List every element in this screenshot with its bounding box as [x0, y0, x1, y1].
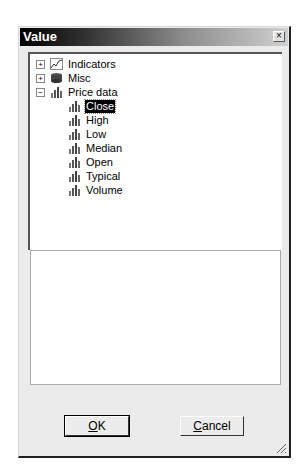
ok-accel: O — [88, 419, 97, 433]
cancel-accel: C — [193, 419, 202, 433]
bar-chart-icon — [68, 114, 81, 126]
bar-chart-icon — [68, 100, 81, 112]
tree-node-label: Typical — [86, 170, 120, 183]
tree-node-label: Low — [86, 128, 106, 141]
value-dialog: Value × + Indicators + Misc − — [18, 26, 291, 458]
ok-button[interactable]: OK — [65, 416, 129, 436]
dialog-title: Value — [23, 29, 57, 44]
value-tree[interactable]: + Indicators + Misc − Price data — [28, 52, 282, 250]
tree-node-label: Close — [85, 100, 115, 113]
description-panel — [30, 250, 281, 385]
ok-label-rest: K — [98, 419, 106, 433]
bar-chart-icon — [68, 128, 81, 140]
tree-node-label: Misc — [68, 72, 91, 85]
tree-node-label: Open — [86, 156, 113, 169]
expand-icon[interactable]: + — [36, 60, 45, 69]
bar-chart-icon — [50, 86, 63, 98]
tree-node-label: Indicators — [68, 58, 116, 71]
expand-icon[interactable]: + — [36, 74, 45, 83]
tree-node-label: Volume — [86, 184, 123, 197]
indicator-line-icon — [50, 58, 63, 70]
cancel-label-rest: ancel — [202, 419, 231, 433]
bar-chart-icon — [68, 184, 81, 196]
close-icon: × — [276, 30, 282, 41]
tree-node-label: Median — [86, 142, 122, 155]
resize-grip-icon[interactable] — [275, 442, 287, 454]
close-button[interactable]: × — [273, 31, 285, 42]
bar-chart-icon — [68, 170, 81, 182]
tree-node-label: High — [86, 114, 109, 127]
bar-chart-icon — [68, 142, 81, 154]
title-bar[interactable]: Value × — [20, 28, 288, 46]
bar-chart-icon — [68, 156, 81, 168]
collapse-icon[interactable]: − — [36, 88, 45, 97]
misc-database-icon — [50, 72, 63, 84]
tree-node-label: Price data — [68, 86, 118, 99]
cancel-button[interactable]: Cancel — [180, 416, 244, 436]
